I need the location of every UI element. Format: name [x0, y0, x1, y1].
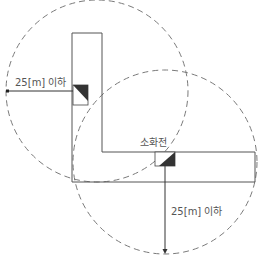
hydrant-coverage-diagram: 25[m] 이하 소화전 25[m] 이하 [0, 0, 266, 264]
hydrant-label: 소화전 [140, 137, 167, 148]
fire-hydrant-1-icon [73, 85, 88, 105]
bottom-distance-label: 25[m] 이하 [171, 205, 222, 217]
arrow-head-icon [163, 249, 168, 254]
left-distance-endpoint [6, 90, 9, 93]
left-distance-label: 25[m] 이하 [15, 76, 66, 88]
fire-hydrant-2-icon [155, 152, 175, 166]
